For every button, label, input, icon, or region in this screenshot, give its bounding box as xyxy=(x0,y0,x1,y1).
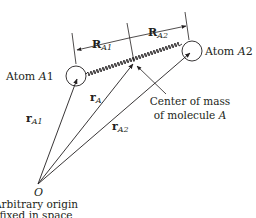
vector-label-r-a: rA xyxy=(90,91,102,105)
vector-r-a1 xyxy=(38,79,77,184)
vector-label-r-a2: rA2 xyxy=(112,120,129,134)
vector-label-r-a1: rA1 xyxy=(26,112,43,126)
dimension-label-r-a2: RA2 xyxy=(148,26,168,40)
dimension-label-r-a1: RA1 xyxy=(92,38,112,52)
atom-a1-label: Atom A1 xyxy=(5,70,54,83)
molecule-diagram: Atom A1 Atom A2 RA1 RA2 rA1 rA rA2 Cente… xyxy=(0,0,256,218)
tick-a1 xyxy=(72,33,76,64)
center-of-mass-label-line2: of molecule A xyxy=(154,109,227,121)
atom-a2-circle xyxy=(182,41,202,61)
origin-caption-line2: fixed in space xyxy=(0,209,73,218)
center-of-mass-pointer xyxy=(137,66,166,94)
atom-a1-circle xyxy=(66,66,86,86)
center-of-mass-label-line1: Center of mass xyxy=(150,95,230,107)
atom-a2-label: Atom A2 xyxy=(204,45,253,58)
